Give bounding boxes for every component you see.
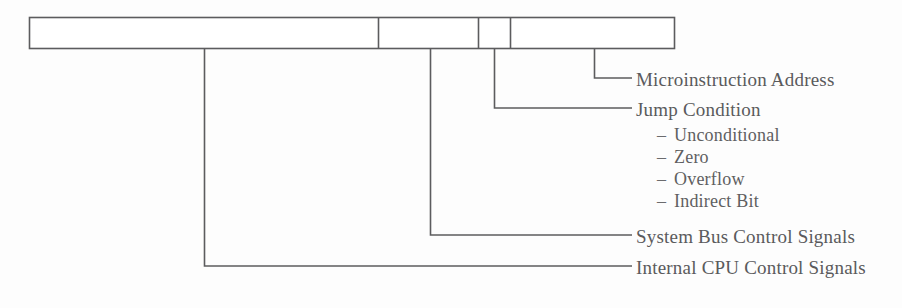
leader-line-system-bus-control-signals — [431, 49, 633, 235]
microinstruction-field-box — [30, 18, 675, 49]
jump-condition-option-indirect-bit: Indirect Bit — [674, 192, 759, 210]
jump-condition-option-zero: Zero — [674, 148, 709, 166]
leader-line-microinstruction-address — [595, 49, 633, 78]
jump-condition-option-dash-1: – — [657, 126, 666, 144]
callout-label-system-bus-control-signals: System Bus Control Signals — [636, 227, 855, 246]
callout-label-jump-condition: Jump Condition — [636, 100, 761, 119]
jump-condition-option-dash-2: – — [657, 148, 666, 166]
jump-condition-option-dash-3: – — [657, 170, 666, 188]
jump-condition-option-dash-4: – — [657, 192, 666, 210]
jump-condition-option-unconditional: Unconditional — [674, 126, 780, 144]
jump-condition-option-overflow: Overflow — [674, 170, 745, 188]
callout-label-internal-cpu-control-signals: Internal CPU Control Signals — [636, 258, 866, 277]
callout-label-microinstruction-address: Microinstruction Address — [636, 70, 834, 89]
leader-line-internal-cpu-control-signals — [205, 49, 633, 266]
microinstruction-format-diagram: Microinstruction Address Jump Condition … — [0, 0, 902, 308]
